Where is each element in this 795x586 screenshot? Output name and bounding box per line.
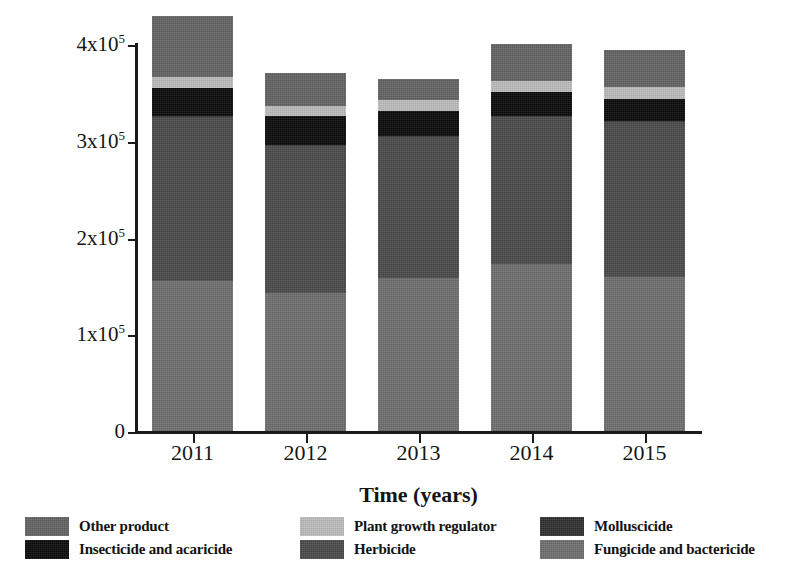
legend-entry-insecticide-and-acaricide: Insecticide and acaricide: [25, 539, 232, 560]
bar-segment-herbicide: [491, 117, 572, 264]
legend-column-2: Plant growth regulatorHerbicide: [300, 516, 497, 562]
y-tick-label-400000: 4x105: [77, 31, 126, 57]
legend-label: Insecticide and acaricide: [79, 541, 232, 558]
bar-segment-plant-growth-regulator: [152, 77, 233, 88]
bar-segment-plant-growth-regulator: [491, 81, 572, 93]
swatch-insecticide-and-acaricide: [25, 540, 69, 559]
x-axis-title: Time (years): [137, 482, 700, 508]
y-tick-200000: [128, 239, 137, 241]
bar-segment-herbicide: [265, 146, 346, 293]
y-tick-label-300000: 3x105: [77, 128, 126, 154]
bar-segment-herbicide: [604, 122, 685, 277]
y-tick-exponent: 5: [119, 128, 126, 143]
y-tick-exponent: 5: [119, 31, 126, 46]
bar-segment-insecticide-and-acaricide: [152, 88, 233, 116]
bar-segment-herbicide: [152, 117, 233, 281]
bar-segment-fungicide-and-bactericide: [378, 278, 459, 432]
bar-segment-other-product: [265, 73, 346, 106]
y-tick-label-0: 0: [115, 419, 126, 444]
legend-column-1: Other productInsecticide and acaricide: [25, 516, 232, 562]
y-axis-ticks: 4x1053x1052x1051x1050: [137, 45, 138, 432]
swatch-molluscicide: [540, 517, 584, 536]
bar-segment-fungicide-and-bactericide: [604, 277, 685, 432]
bar-segment-plant-growth-regulator: [378, 100, 459, 111]
y-tick-300000: [128, 142, 137, 144]
x-tick-label-2013: 2013: [397, 440, 441, 466]
bar-2012: [265, 73, 346, 432]
y-tick-exponent: 5: [119, 224, 126, 239]
legend-label: Other product: [79, 518, 169, 535]
bar-segment-insecticide-and-acaricide: [491, 92, 572, 115]
bar-segment-other-product: [378, 79, 459, 100]
swatch-fungicide-and-bactericide: [540, 540, 584, 559]
y-tick-label-200000: 2x105: [77, 224, 126, 250]
legend-label: Plant growth regulator: [354, 518, 497, 535]
y-tick-label-100000: 1x105: [77, 321, 126, 347]
bar-segment-other-product: [604, 50, 685, 87]
legend-entry-molluscicide: Molluscicide: [540, 516, 755, 537]
bar-segment-herbicide: [378, 137, 459, 278]
bar-segment-fungicide-and-bactericide: [265, 293, 346, 432]
y-tick-mantissa: 3x10: [77, 129, 119, 153]
y-tick-exponent: 5: [119, 321, 126, 336]
bar-segment-other-product: [152, 16, 233, 77]
swatch-herbicide: [300, 540, 344, 559]
legend-entry-herbicide: Herbicide: [300, 539, 497, 560]
legend-label: Herbicide: [354, 541, 416, 558]
legend-entry-other-product: Other product: [25, 516, 232, 537]
chart-legend: Other productInsecticide and acaricidePl…: [0, 516, 795, 566]
bar-segment-fungicide-and-bactericide: [491, 264, 572, 432]
swatch-plant-growth-regulator: [300, 517, 344, 536]
bar-segment-insecticide-and-acaricide: [265, 116, 346, 145]
x-tick-label-2015: 2015: [623, 440, 667, 466]
y-tick-100000: [128, 335, 137, 337]
bar-segment-fungicide-and-bactericide: [152, 281, 233, 432]
bar-2013: [378, 79, 459, 432]
legend-entry-fungicide-and-bactericide: Fungicide and bactericide: [540, 539, 755, 560]
bar-segment-other-product: [491, 44, 572, 81]
swatch-other-product: [25, 517, 69, 536]
legend-label: Molluscicide: [594, 518, 672, 535]
x-axis-ticks: [137, 431, 700, 432]
x-tick-label-2012: 2012: [284, 440, 328, 466]
bar-2014: [491, 44, 572, 432]
y-tick-mantissa: 2x10: [77, 225, 119, 249]
y-tick-mantissa: 4x10: [77, 32, 119, 56]
bar-segment-plant-growth-regulator: [604, 87, 685, 100]
legend-label: Fungicide and bactericide: [594, 541, 755, 558]
bar-segment-insecticide-and-acaricide: [378, 111, 459, 136]
plot-area: [137, 45, 700, 432]
y-tick-mantissa: 1x10: [77, 322, 119, 346]
legend-entry-plant-growth-regulator: Plant growth regulator: [300, 516, 497, 537]
bar-2011: [152, 16, 233, 432]
legend-column-3: MolluscicideFungicide and bactericide: [540, 516, 755, 562]
y-tick-400000: [128, 45, 137, 47]
x-tick-label-2011: 2011: [171, 440, 214, 466]
figure-stacked-bar-chart: 4x1053x1052x1051x1050 Saled products (to…: [0, 0, 795, 586]
bar-segment-plant-growth-regulator: [265, 106, 346, 116]
x-tick-label-2014: 2014: [510, 440, 554, 466]
bar-2015: [604, 50, 685, 432]
bar-segment-insecticide-and-acaricide: [604, 99, 685, 121]
